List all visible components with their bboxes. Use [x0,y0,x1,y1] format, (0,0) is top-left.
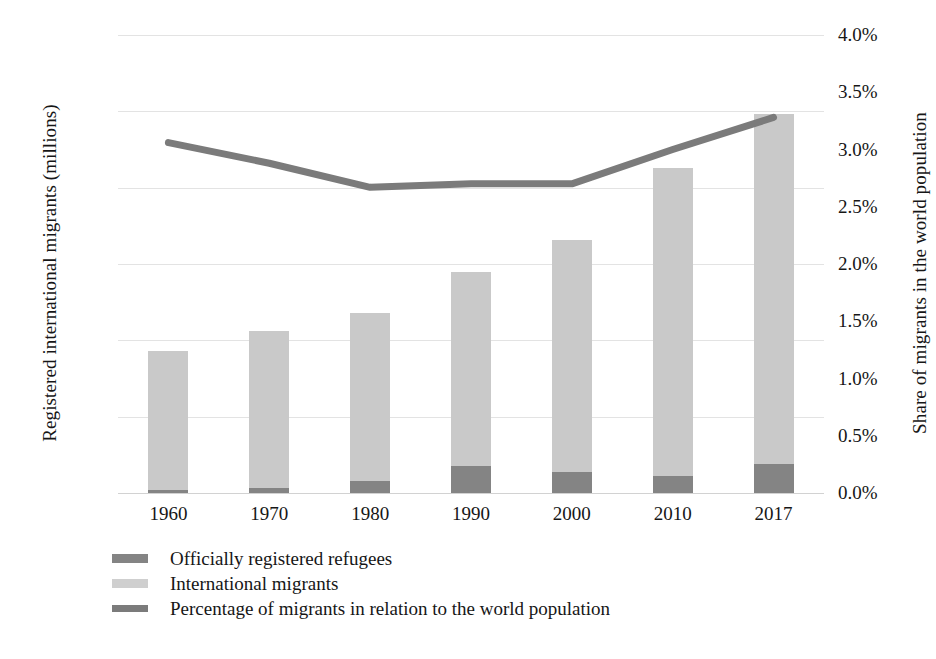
legend-swatch-migrants-icon [112,579,148,588]
migration-chart-figure: Registered international migrants (milli… [0,0,936,659]
y-axis-right-title: Share of migrants in the world populatio… [909,53,931,493]
legend-item-label: International migrants [170,573,338,595]
legend-item[interactable]: International migrants [112,571,912,596]
legend-item-label: Percentage of migrants in relation to th… [170,598,610,620]
plot-area [118,35,824,493]
percentage-line-series [118,35,824,493]
x-axis-tick-label: 1980 [320,503,420,525]
legend-item[interactable]: Officially registered refugees [112,546,912,571]
y-axis-right-tick-label: 4.0% [838,25,936,44]
x-axis-tick-label: 2000 [522,503,622,525]
percentage-line-path [168,117,773,187]
x-axis-tick-label: 1970 [219,503,319,525]
x-axis-tick-label: 2010 [623,503,723,525]
gridline [118,493,824,494]
x-axis-tick-label: 1960 [118,503,218,525]
y-axis-left-title: Registered international migrants (milli… [39,53,61,493]
x-axis-tick-label: 2017 [724,503,824,525]
legend-item-label: Officially registered refugees [170,548,392,570]
chart-legend: Officially registered refugeesInternatio… [112,546,912,621]
legend-swatch-pct-icon [112,605,148,612]
legend-item[interactable]: Percentage of migrants in relation to th… [112,596,912,621]
legend-swatch-refugees-icon [112,554,148,563]
x-axis-tick-label: 1990 [421,503,521,525]
